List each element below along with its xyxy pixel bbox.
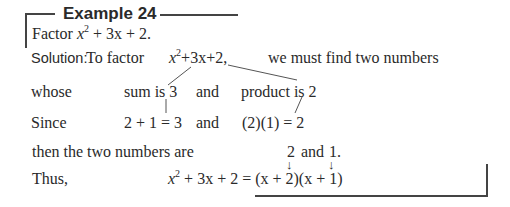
connector-3x-to-sum [168,67,191,85]
connector-lines [0,0,510,207]
connector-product-to-equation [295,97,302,113]
connector-2-to-product [228,65,297,80]
